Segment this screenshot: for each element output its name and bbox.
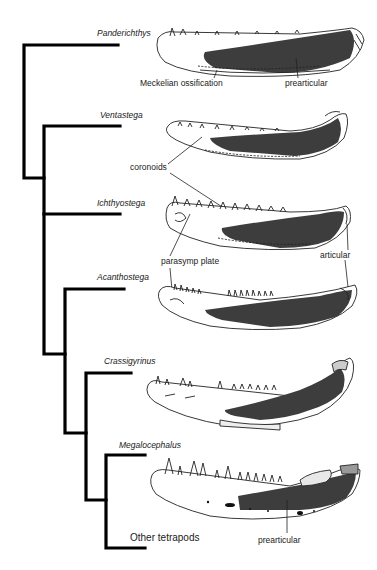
jaw-panderichthys: [157, 28, 364, 76]
branch-ventastega: [44, 126, 120, 354]
jaw-ventastega: [166, 112, 347, 160]
jaw-megalocephalus: [151, 458, 360, 519]
annotation-prearticular-bottom: prearticular: [258, 535, 301, 545]
taxon-label-megalocephalus: Megalocephalus: [119, 440, 181, 450]
taxon-label-panderichthys: Panderichthys: [97, 28, 151, 38]
taxon-label-crassigyrinus: Crassigyrinus: [104, 356, 156, 366]
jaw-ichthyostega: [166, 196, 351, 250]
taxon-label-acanthostega: Acanthostega: [97, 272, 149, 282]
jaw-crassigyrinus: [147, 358, 354, 430]
taxon-label-ichthyostega: Ichthyostega: [97, 198, 145, 208]
cladogram-figure: Panderichthys Ventastega Ichthyostega Ac…: [0, 0, 377, 570]
annotation-coronoids: coronoids: [130, 162, 167, 172]
taxon-label-ventastega: Ventastega: [100, 110, 143, 120]
taxon-label-other-tetrapods: Other tetrapods: [130, 532, 199, 543]
jaw-acanthostega: [158, 284, 357, 330]
leader-articular-1: [347, 224, 348, 250]
branch-crassigyrinus: [86, 373, 131, 500]
annotation-prearticular-top: prearticular: [285, 78, 328, 88]
annotation-articular: articular: [320, 250, 350, 260]
leader-articular-2: [345, 260, 348, 287]
annotation-meckelian-ossification: Meckelian ossification: [140, 78, 223, 88]
annotation-parasymp-plate: parasymp plate: [161, 256, 219, 266]
